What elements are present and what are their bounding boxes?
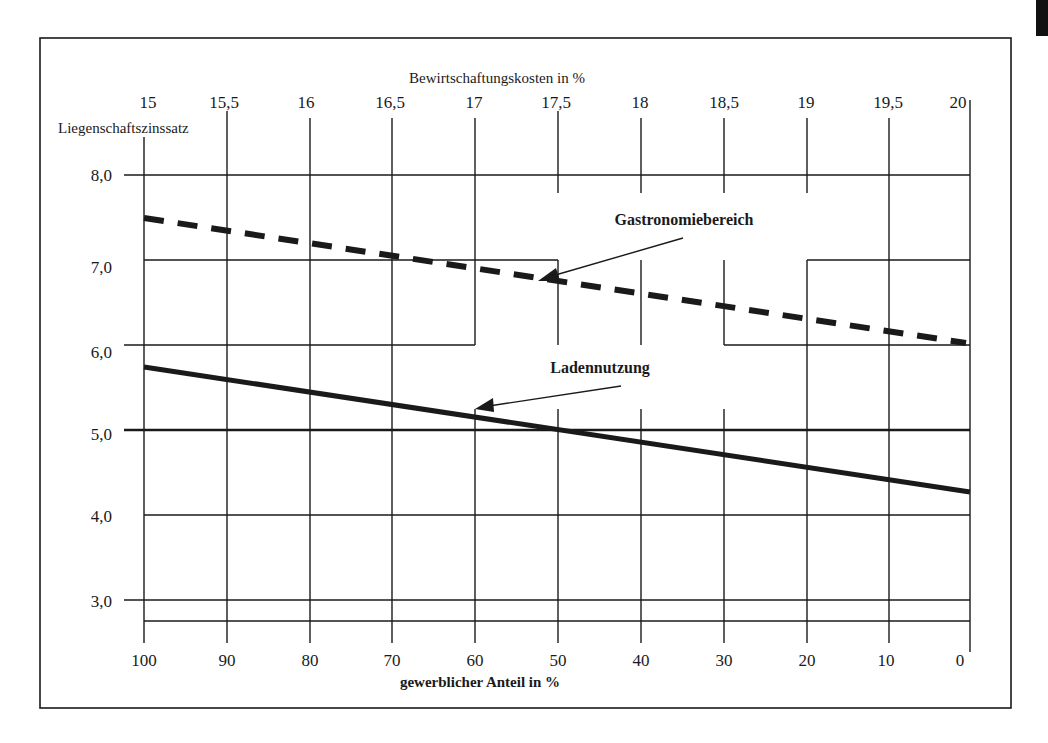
top-tick: 19	[798, 93, 815, 112]
top-axis-title: Bewirtschaftungskosten in %	[409, 70, 585, 86]
arrow-gastronomiebereich-line	[552, 238, 683, 276]
top-tick: 15	[140, 93, 157, 112]
bottom-tick: 30	[716, 651, 733, 670]
top-tick: 16	[298, 93, 315, 112]
top-axis-ticks: 15 15,5 16 16,5 17 17,5 18 18,5 19 19,5 …	[140, 93, 967, 112]
top-tick: 15,5	[209, 93, 239, 112]
y-tick: 7,0	[91, 258, 112, 277]
y-tick: 6,0	[91, 343, 112, 362]
arrow-ladennutzung-line	[489, 386, 621, 406]
bottom-axis-title: gewerblicher Anteil in %	[400, 674, 560, 690]
arrow-head-icon	[475, 398, 494, 412]
y-axis-ticks: 8,0 7,0 6,0 5,0 4,0 3,0	[91, 166, 112, 611]
top-tick: 18,5	[709, 93, 739, 112]
top-tick: 17,5	[541, 93, 571, 112]
top-tick: 16,5	[375, 93, 405, 112]
annotation-ladennutzung: Ladennutzung	[550, 359, 650, 377]
top-tick: 17	[466, 93, 484, 112]
bottom-tick: 20	[799, 651, 816, 670]
y-tick: 4,0	[91, 507, 112, 526]
bottom-tick: 0	[956, 651, 965, 670]
y-tick: 8,0	[91, 166, 112, 185]
annotation-gastronomiebereich: Gastronomiebereich	[615, 211, 754, 228]
bottom-tick: 40	[633, 651, 650, 670]
chart: Bewirtschaftungskosten in % Liegenschaft…	[0, 0, 1048, 743]
bottom-tick: 70	[384, 651, 401, 670]
bottom-tick: 60	[467, 651, 484, 670]
y-tick: 5,0	[91, 425, 112, 444]
top-tick: 18	[632, 93, 649, 112]
bottom-tick: 100	[131, 651, 157, 670]
bottom-tick: 80	[302, 651, 319, 670]
bottom-tick: 90	[219, 651, 236, 670]
top-tick: 19,5	[873, 93, 903, 112]
bottom-axis-ticks: 100 90 80 70 60 50 40 30 20 10 0	[131, 651, 964, 670]
top-tick: 20	[950, 93, 967, 112]
y-tick: 3,0	[91, 592, 112, 611]
grid	[124, 100, 970, 652]
arrow-head-icon	[538, 268, 560, 281]
bottom-tick: 10	[878, 651, 895, 670]
y-axis-title: Liegenschaftszinssatz	[58, 120, 189, 136]
bottom-tick: 50	[550, 651, 567, 670]
